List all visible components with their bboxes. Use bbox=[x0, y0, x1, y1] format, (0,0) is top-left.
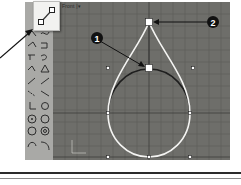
arc-icon bbox=[41, 55, 46, 60]
arc-end-icon bbox=[41, 142, 49, 150]
circle-tangent-icon bbox=[28, 127, 36, 135]
circle-center-icon bbox=[28, 115, 36, 123]
point-bottom bbox=[148, 156, 151, 159]
line-segments-icon bbox=[28, 55, 35, 60]
control-point bbox=[146, 65, 153, 72]
divider-thick bbox=[0, 172, 241, 174]
circle-diameter-icon bbox=[41, 127, 49, 135]
curve-points[interactable] bbox=[107, 19, 195, 159]
line-icon bbox=[28, 78, 35, 84]
point-upper-right bbox=[192, 67, 195, 70]
highlighted-tool-button[interactable] bbox=[33, 1, 60, 31]
arc-start-icon bbox=[28, 142, 36, 147]
grid bbox=[53, 2, 230, 160]
point-left bbox=[107, 112, 110, 115]
svg-text:1: 1 bbox=[94, 34, 99, 44]
divider-thin bbox=[0, 178, 241, 179]
viewport-label[interactable]: Front |▾ bbox=[62, 3, 81, 9]
point-upper-left bbox=[107, 67, 110, 70]
curve-interpolate-icon bbox=[41, 32, 49, 34]
freeform-curve-icon bbox=[28, 66, 35, 71]
point-right bbox=[189, 112, 192, 115]
curve-control-points-icon bbox=[28, 42, 36, 47]
line-control-point-icon bbox=[34, 2, 59, 30]
polyline-dash-icon bbox=[28, 91, 35, 96]
conic-icon bbox=[41, 65, 49, 72]
line-perpendicular-icon bbox=[30, 102, 36, 109]
curve-handle-icon bbox=[41, 43, 47, 48]
point-bottom-right bbox=[189, 156, 192, 159]
svg-text:2: 2 bbox=[210, 18, 215, 28]
top-point bbox=[146, 19, 153, 26]
line-angle-icon bbox=[41, 78, 49, 84]
point-bottom-left bbox=[107, 156, 110, 159]
axes-indicator bbox=[72, 140, 86, 153]
circle-3pt-icon bbox=[41, 115, 49, 123]
line-tangent-icon bbox=[41, 91, 49, 96]
circle-arc-icon bbox=[42, 103, 49, 110]
